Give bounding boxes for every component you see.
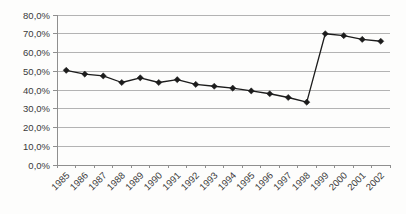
y-axis-tick-label: 10,0% [23,141,50,152]
data-point-marker [322,31,328,37]
x-axis-year-label: 1989 [123,170,146,193]
x-axis-year-label: 1990 [141,170,164,193]
data-point-marker [359,36,365,42]
data-point-marker [156,79,162,85]
line-chart-svg: 0,0%10,0%20,0%30,0%40,0%50,0%60,0%70,0%8… [0,0,406,214]
x-axis-year-label: 2002 [363,170,386,193]
y-axis-tick-label: 80,0% [23,10,50,21]
data-point-marker [378,38,384,44]
x-axis-year-label: 1997 [271,170,294,193]
x-axis-year-label: 1987 [86,170,109,193]
x-axis-year-label: 2001 [345,170,368,193]
x-axis-year-label: 1993 [197,170,220,193]
data-point-marker [248,88,254,94]
x-axis-year-label: 1986 [67,170,90,193]
data-point-marker [119,79,125,85]
chart: 0,0%10,0%20,0%30,0%40,0%50,0%60,0%70,0%8… [0,0,406,214]
x-axis-year-label: 1991 [160,170,183,193]
data-point-marker [211,83,217,89]
data-point-marker [267,91,273,97]
data-point-marker [63,67,69,73]
x-axis-year-label: 1994 [215,170,238,193]
x-axis-year-label: 1995 [234,170,257,193]
y-axis-tick-label: 40,0% [23,85,50,96]
y-axis-tick-label: 50,0% [23,66,50,77]
y-axis-tick-label: 0,0% [28,160,50,171]
series-line [66,34,381,102]
x-axis-year-label: 1992 [178,170,201,193]
data-point-marker [137,75,143,81]
y-axis-tick-label: 20,0% [23,122,50,133]
data-point-marker [304,99,310,105]
data-point-marker [100,73,106,79]
x-axis-year-label: 2000 [326,170,349,193]
data-point-marker [82,71,88,77]
data-point-marker [193,81,199,87]
y-axis-tick-label: 60,0% [23,47,50,58]
y-axis-tick-label: 70,0% [23,28,50,39]
x-axis-year-label: 1999 [308,170,331,193]
data-point-marker [285,94,291,100]
x-axis-year-label: 1996 [252,170,275,193]
x-axis-year-label: 1998 [289,170,312,193]
data-point-marker [174,77,180,83]
y-axis-tick-label: 30,0% [23,103,50,114]
x-axis-year-label: 1988 [104,170,127,193]
x-axis-year-label: 1985 [49,170,72,193]
